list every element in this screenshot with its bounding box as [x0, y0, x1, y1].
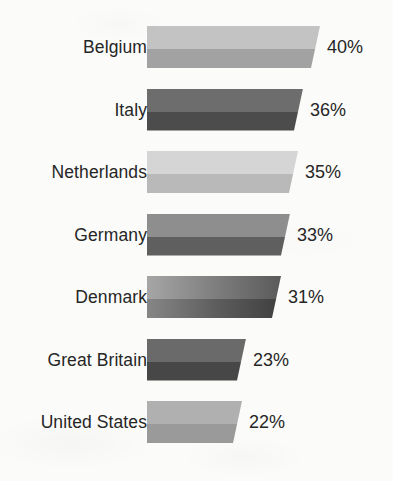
bar-bottom-face — [147, 49, 320, 68]
value-label: 35% — [305, 151, 341, 193]
category-label: Great Britain — [0, 339, 147, 381]
value-label: 23% — [253, 339, 289, 381]
bar — [147, 26, 320, 68]
bar-bottom-face — [147, 299, 281, 318]
bar-bottom-face — [147, 174, 298, 193]
bar-row: Germany33% — [0, 214, 393, 256]
bar-row: United States22% — [0, 401, 393, 443]
category-label: Denmark — [0, 276, 147, 318]
bar-chart: Belgium40%Italy36%Netherlands35%Germany3… — [0, 0, 393, 481]
bar-row: Netherlands35% — [0, 151, 393, 193]
bar-row: Great Britain23% — [0, 339, 393, 381]
bar-bottom-face — [147, 362, 246, 381]
category-label: Netherlands — [0, 151, 147, 193]
bar — [147, 214, 290, 256]
bar — [147, 339, 246, 381]
bar-top-face — [147, 339, 246, 362]
category-label: Germany — [0, 214, 147, 256]
bar-bottom-face — [147, 424, 242, 443]
bar-top-face — [147, 401, 242, 424]
bar-bottom-face — [147, 112, 303, 131]
bar-top-face — [147, 151, 298, 174]
bar-top-face — [147, 89, 303, 112]
bar-bottom-face — [147, 237, 290, 256]
bar-top-face — [147, 276, 281, 299]
bar — [147, 89, 303, 131]
bar-row: Italy36% — [0, 89, 393, 131]
category-label: Belgium — [0, 26, 147, 68]
bar — [147, 276, 281, 318]
bar — [147, 401, 242, 443]
category-label: Italy — [0, 89, 147, 131]
value-label: 36% — [310, 89, 346, 131]
bar-row: Denmark31% — [0, 276, 393, 318]
bar-row: Belgium40% — [0, 26, 393, 68]
bar-top-face — [147, 26, 320, 49]
value-label: 40% — [327, 26, 363, 68]
value-label: 22% — [249, 401, 285, 443]
value-label: 33% — [297, 214, 333, 256]
category-label: United States — [0, 401, 147, 443]
value-label: 31% — [288, 276, 324, 318]
bar-top-face — [147, 214, 290, 237]
bar — [147, 151, 298, 193]
